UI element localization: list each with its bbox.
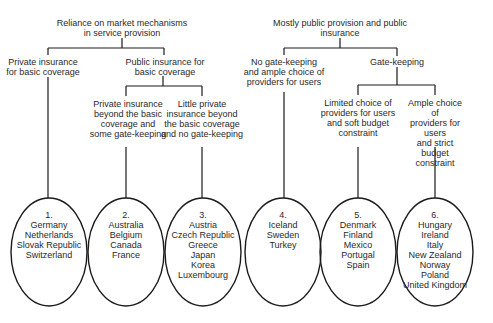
country: Canada xyxy=(108,240,143,250)
node-little-private: Little private insurance beyond the basi… xyxy=(161,99,243,139)
country: Poland xyxy=(403,270,467,280)
country: Iceland xyxy=(267,220,300,230)
root-market-mechanisms: Reliance on market mechanisms in service… xyxy=(57,18,188,38)
country: Korea xyxy=(171,260,234,270)
country: Denmark xyxy=(340,220,377,230)
country: Czech Republic xyxy=(171,230,234,240)
country: Austria xyxy=(171,220,234,230)
country: Italy xyxy=(403,240,467,250)
node-private-beyond-basic: Private insurance beyond the basic cover… xyxy=(90,99,167,139)
group-number: 3. xyxy=(171,210,234,220)
group-number: 2. xyxy=(108,210,143,220)
country: New Zealand xyxy=(403,250,467,260)
node-public-insurance-basic: Public insurance for basic coverage xyxy=(125,57,204,77)
country: Belgium xyxy=(108,230,143,240)
country: Japan xyxy=(171,250,234,260)
country: Netherlands xyxy=(17,230,82,240)
country: Finland xyxy=(340,230,377,240)
country: Sweden xyxy=(267,230,300,240)
group-4-list: 4. Iceland Sweden Turkey xyxy=(267,210,300,250)
country: Slovak Republic xyxy=(17,240,82,250)
country: Luxembourg xyxy=(171,270,234,280)
group-2-list: 2. Australia Belgium Canada France xyxy=(108,210,143,260)
node-ample-choice: Ample choice of providers for users and … xyxy=(406,98,464,168)
country: Portugal xyxy=(340,250,377,260)
country: Turkey xyxy=(267,240,300,250)
group-number: 5. xyxy=(340,210,377,220)
group-1-list: 1. Germany Netherlands Slovak Republic S… xyxy=(17,210,82,260)
country: France xyxy=(108,250,143,260)
country: Australia xyxy=(108,220,143,230)
group-number: 1. xyxy=(17,210,82,220)
node-private-insurance-basic: Private insurance for basic coverage xyxy=(6,57,80,77)
country: United Kingdom xyxy=(403,280,467,290)
group-5-list: 5. Denmark Finland Mexico Portugal Spain xyxy=(340,210,377,270)
country: Ireland xyxy=(403,230,467,240)
country: Greece xyxy=(171,240,234,250)
group-number: 4. xyxy=(267,210,300,220)
node-limited-choice: Limited choice of providers for users an… xyxy=(321,98,396,138)
country: Switzerland xyxy=(17,250,82,260)
country: Norway xyxy=(403,260,467,270)
root-public-provision: Mostly public provision and public insur… xyxy=(273,18,407,38)
country: Mexico xyxy=(340,240,377,250)
group-6-list: 6. Hungary Ireland Italy New Zealand Nor… xyxy=(403,210,467,290)
country: Hungary xyxy=(403,220,467,230)
group-3-list: 3. Austria Czech Republic Greece Japan K… xyxy=(171,210,234,280)
country: Spain xyxy=(340,260,377,270)
node-no-gatekeeping: No gate-keeping and ample choice of prov… xyxy=(244,57,325,87)
group-number: 6. xyxy=(403,210,467,220)
node-gatekeeping: Gate-keeping xyxy=(370,57,424,67)
country: Germany xyxy=(17,220,82,230)
